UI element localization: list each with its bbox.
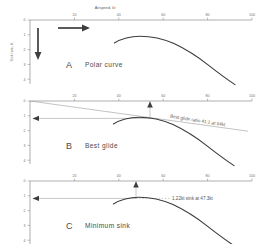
best-glide-annotation: Best glide ratio 41:1 at 54kt xyxy=(170,114,226,128)
x-tick-label: 100 xyxy=(249,13,255,17)
y-tick-label: 1 xyxy=(23,114,25,118)
x-axis-ticks: 20 40 60 80 100 xyxy=(72,174,255,181)
x-tick-label: 100 xyxy=(249,174,255,178)
panel-minimum-sink: 20 40 60 80 100 0 1 2 3 4 xyxy=(0,162,259,244)
y-axis-ticks: 0 1 2 3 4 xyxy=(23,99,30,162)
y-tick-label: 0 xyxy=(23,179,25,183)
y-axis-ticks: 0 1 2 3 4 xyxy=(23,18,30,81)
x-axis-ticks: 20 40 60 80 100 xyxy=(72,94,255,101)
y-tick-label: 2 xyxy=(23,209,25,213)
x-tick-label: 20 xyxy=(72,174,76,178)
x-tick-label: 80 xyxy=(206,94,210,98)
panel-title: Polar curve xyxy=(85,61,123,68)
panel-letter: A xyxy=(66,60,72,70)
y-tick-label: 2 xyxy=(23,129,25,133)
polar-curve-line xyxy=(114,36,235,84)
x-tick-label: 60 xyxy=(161,94,165,98)
x-tick-label: 100 xyxy=(249,94,255,98)
x-tick-label: 40 xyxy=(117,174,121,178)
y-tick-label: 0 xyxy=(23,18,25,22)
y-tick-label: 3 xyxy=(23,144,25,148)
y-tick-label: 3 xyxy=(23,224,25,228)
panel-letter: B xyxy=(66,141,72,151)
panel-letter: C xyxy=(66,221,73,231)
x-tick-label: 80 xyxy=(206,174,210,178)
panel-best-glide: 20 40 60 80 100 0 1 2 3 4 xyxy=(0,82,259,164)
airspeed-direction-arrow-icon xyxy=(58,25,90,32)
x-axis-title: Airspeed, kt xyxy=(95,5,116,10)
x-tick-label: 40 xyxy=(117,13,121,17)
x-tick-label: 80 xyxy=(206,13,210,17)
panel-title: Best glide xyxy=(85,142,118,150)
x-tick-label: 40 xyxy=(117,94,121,98)
y-axis-title: Sink rate, kt xyxy=(10,43,14,62)
x-tick-label: 60 xyxy=(161,13,165,17)
y-tick-label: 3 xyxy=(23,63,25,67)
x-tick-label: 20 xyxy=(72,94,76,98)
y-tick-label: 1 xyxy=(23,33,25,37)
y-tick-label: 0 xyxy=(23,99,25,103)
glider-polar-figure: Airspeed, kt 20 40 60 80 100 xyxy=(0,0,259,244)
x-tick-label: 60 xyxy=(161,174,165,178)
best-glide-tangent-line xyxy=(30,101,248,131)
sink-direction-arrow-icon xyxy=(35,28,42,60)
y-tick-label: 4 xyxy=(23,78,25,82)
y-tick-label: 4 xyxy=(23,239,25,243)
x-axis-ticks: 20 40 60 80 100 xyxy=(72,13,255,20)
minimum-sink-annotation: 1.22kt sink at 47.3kt xyxy=(172,196,214,201)
y-tick-label: 2 xyxy=(23,48,25,52)
y-tick-label: 1 xyxy=(23,194,25,198)
panel-polar-curve: Airspeed, kt 20 40 60 80 100 xyxy=(0,0,259,84)
panel-title: Minimum sink xyxy=(85,222,130,229)
y-axis-ticks: 0 1 2 3 4 xyxy=(23,179,30,242)
x-tick-label: 20 xyxy=(72,13,76,17)
polar-curve-line xyxy=(113,197,234,244)
